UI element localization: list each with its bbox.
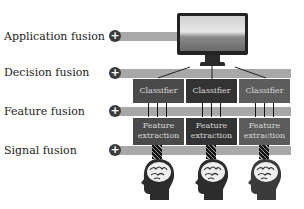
feature-extraction-label: Feature xyxy=(133,121,184,131)
feature-arrow xyxy=(148,103,149,117)
feature-arrow xyxy=(255,103,256,117)
feature-arrow xyxy=(157,103,158,117)
head-brain-icon xyxy=(247,157,283,201)
feature-extraction-label: Feature xyxy=(239,121,290,131)
feature-arrow xyxy=(220,103,221,117)
feature-arrow xyxy=(166,103,167,117)
feature-extraction-box-2: Feature extraction xyxy=(186,118,237,145)
classifier-box-2: Classifier xyxy=(186,79,237,103)
feature-extraction-box-1: Feature extraction xyxy=(133,118,184,145)
feature-extraction-label: extraction xyxy=(239,131,290,141)
head-brain-icon xyxy=(194,157,230,201)
classifier-box-1: Classifier xyxy=(133,79,184,103)
feature-extraction-label: Feature xyxy=(186,121,237,131)
head-brain-icon xyxy=(140,157,176,201)
feature-extraction-box-3: Feature extraction xyxy=(239,118,290,145)
feature-arrow xyxy=(273,103,274,117)
feature-extraction-label: extraction xyxy=(133,131,184,141)
feature-arrow xyxy=(264,103,265,117)
classifier-box-3: Classifier xyxy=(239,79,290,103)
feature-arrow xyxy=(211,103,212,117)
feature-extraction-label: extraction xyxy=(186,131,237,141)
feature-arrow xyxy=(202,103,203,117)
